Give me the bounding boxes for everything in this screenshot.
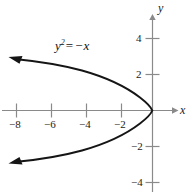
y-tick-label-minus2: −2	[131, 140, 143, 152]
y-axis-label: y	[158, 1, 163, 16]
x-tick-label-minus4: −4	[79, 118, 91, 130]
x-tick-label-minus2: −2	[114, 118, 126, 130]
graph-figure: y2=−x −8 −6 −4 −2 4 2 −2 −4 y x	[0, 0, 190, 194]
plot-canvas	[0, 0, 190, 194]
curve-arrowhead-upper	[9, 56, 23, 64]
equation-rhs-variable: x	[83, 38, 89, 53]
y-tick-label-minus4: −4	[131, 176, 143, 188]
equation-equals-sign: =	[65, 38, 74, 53]
x-tick-label-minus8: −8	[9, 118, 21, 130]
curve-equation-label: y2=−x	[55, 38, 89, 54]
x-axis-label: x	[180, 103, 185, 118]
curve-arrowhead-lower	[9, 157, 23, 165]
x-tick-label-minus6: −6	[44, 118, 56, 130]
x-axis-arrowhead	[172, 107, 179, 113]
y-tick-label-2: 2	[136, 68, 142, 80]
y-tick-label-4: 4	[136, 32, 142, 44]
y-axis-arrowhead	[149, 14, 155, 20]
